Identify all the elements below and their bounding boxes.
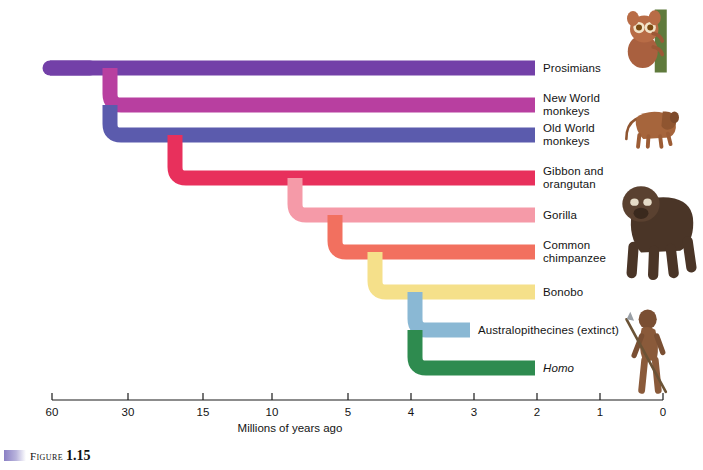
axis-tick-label-60: 60 [46, 406, 59, 418]
figure-caption-word: Figure [30, 450, 63, 462]
axis-tick-label-15: 15 [197, 406, 210, 418]
axis-tick-label-1: 1 [597, 406, 603, 418]
hominid-photo [622, 292, 690, 410]
gorilla-photo [612, 176, 698, 288]
figure-1-15: ProsimiansNew World monkeysOld World mon… [0, 0, 703, 470]
figure-caption-swatch [4, 450, 26, 461]
figure-caption-number: 1.15 [66, 448, 91, 463]
axis-tick-label-5: 5 [345, 406, 351, 418]
axis-tick-label-30: 30 [122, 406, 135, 418]
time-axis [0, 0, 703, 470]
axis-tick-label-4: 4 [408, 406, 414, 418]
tarsier-photo [618, 8, 690, 98]
axis-caption: Millions of years ago [238, 422, 343, 434]
axis-tick-label-3: 3 [471, 406, 477, 418]
axis-tick-label-10: 10 [266, 406, 279, 418]
axis-tick-label-2: 2 [534, 406, 540, 418]
figure-caption: Figure1.15 [30, 448, 90, 464]
baboon-photo [612, 96, 694, 174]
